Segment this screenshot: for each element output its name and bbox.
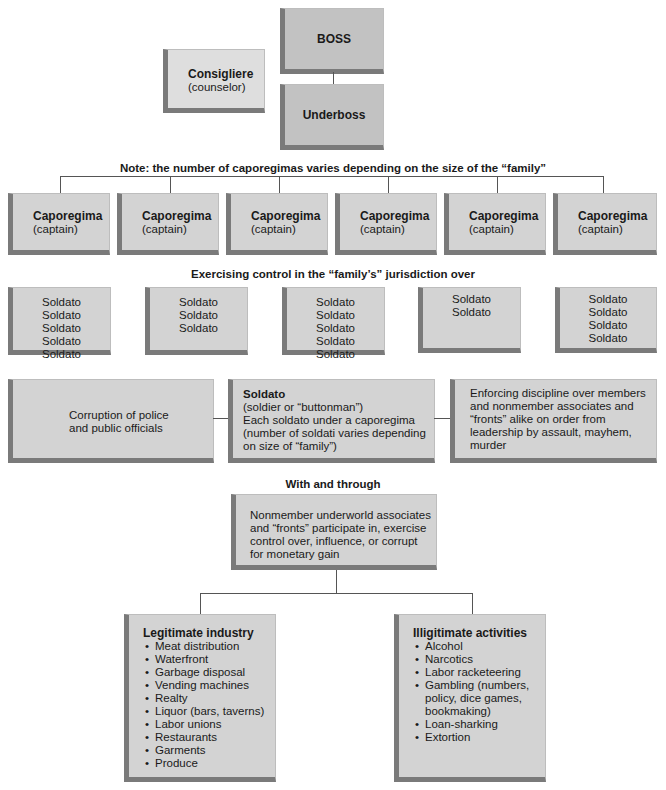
list-item: Labor racketeering xyxy=(413,666,537,679)
control-caption: Exercising control in the “family’s” jur… xyxy=(0,268,666,280)
soldato-line: Each soldato under a caporegima xyxy=(243,414,434,427)
list-item: Gambling (numbers, policy, dice games, b… xyxy=(413,679,537,718)
nonmember-line: for monetary gain xyxy=(250,548,436,561)
soldato-item: Soldato xyxy=(423,293,520,306)
list-item: Restaurants xyxy=(143,731,275,744)
caporegima-box: Caporegima (captain) xyxy=(117,193,219,255)
caporegima-title: Caporegima xyxy=(360,210,436,223)
enforcing-box: Enforcing discipline over members and no… xyxy=(450,379,657,463)
list-item: Narcotics xyxy=(413,653,537,666)
caporegima-subtitle: (captain) xyxy=(469,223,545,236)
nonmember-connector-v xyxy=(336,570,337,594)
caporegima-subtitle: (captain) xyxy=(142,223,218,236)
list-item: Produce xyxy=(143,757,275,770)
nonmember-line: control over, influence, or corrupt xyxy=(250,535,436,548)
caporegima-title: Caporegima xyxy=(469,210,545,223)
caporegima-subtitle: (captain) xyxy=(33,223,109,236)
caporegima-box: Caporegima (captain) xyxy=(8,193,110,255)
soldato-item: Soldato xyxy=(13,322,110,335)
list-item: Alcohol xyxy=(413,640,537,653)
soldato-item: Soldato xyxy=(287,296,384,309)
caporegima-note: Note: the number of caporegimas varies d… xyxy=(0,162,666,174)
caporegima-subtitle: (captain) xyxy=(360,223,436,236)
illegitimate-list: Alcohol Narcotics Labor racketeering Gam… xyxy=(413,640,537,744)
caporegima-title: Caporegima xyxy=(578,210,656,223)
soldato-item: Soldato xyxy=(150,296,247,309)
connector-drop-4 xyxy=(388,176,389,194)
consigliere-box: Consigliere (counselor) xyxy=(163,49,265,113)
caporegima-box: Caporegima (captain) xyxy=(553,193,657,255)
corruption-line: and public officials xyxy=(69,422,213,435)
soldato-title: Soldato xyxy=(243,388,434,401)
connector-drop-5 xyxy=(497,176,498,194)
list-item: Liquor (bars, taverns) xyxy=(143,705,275,718)
soldato-item: Soldato xyxy=(150,322,247,335)
legitimate-title: Legitimate industry xyxy=(143,627,275,640)
soldato-item: Soldato xyxy=(560,306,656,319)
soldato-item: Soldato xyxy=(13,348,110,361)
enforcing-line: leadership by assault, mayhem, xyxy=(470,426,656,439)
caporegima-subtitle: (captain) xyxy=(251,223,327,236)
soldato-group-3: Soldato Soldato Soldato Soldato Soldato xyxy=(282,287,385,355)
caporegima-box: Caporegima (captain) xyxy=(335,193,437,255)
boss-label: BOSS xyxy=(317,33,351,46)
consigliere-title: Consigliere xyxy=(188,68,264,81)
caporegima-title: Caporegima xyxy=(142,210,218,223)
soldato-item: Soldato xyxy=(560,332,656,345)
corruption-soldato-connector xyxy=(213,418,229,419)
nonmember-line: and “fronts” participate in, exercise xyxy=(250,522,436,535)
corruption-box: Corruption of police and public official… xyxy=(8,379,214,463)
caporegima-connector-h xyxy=(60,176,603,177)
enforcing-line: Enforcing discipline over members xyxy=(470,387,656,400)
list-item: Labor unions xyxy=(143,718,275,731)
connector-drop-3 xyxy=(279,176,280,194)
list-item: Loan-sharking xyxy=(413,718,537,731)
connector-drop-6 xyxy=(603,176,604,194)
soldato-group-4: Soldato Soldato xyxy=(418,287,521,353)
caporegima-box: Caporegima (captain) xyxy=(444,193,546,255)
legitimate-list: Meat distribution Waterfront Garbage dis… xyxy=(143,640,275,770)
boss-box: BOSS xyxy=(280,8,384,74)
enforcing-line: and nonmember associates and xyxy=(470,400,656,413)
list-item: Waterfront xyxy=(143,653,275,666)
soldato-item: Soldato xyxy=(560,293,656,306)
soldato-enforcing-connector xyxy=(434,418,450,419)
list-item: Vending machines xyxy=(143,679,275,692)
soldato-item: Soldato xyxy=(13,296,110,309)
corruption-line: Corruption of police xyxy=(69,409,213,422)
list-item: Meat distribution xyxy=(143,640,275,653)
soldato-item: Soldato xyxy=(13,335,110,348)
list-item: Realty xyxy=(143,692,275,705)
enforcing-line: murder xyxy=(470,439,656,452)
nonmember-line: Nonmember underworld associates xyxy=(250,509,436,522)
caporegima-title: Caporegima xyxy=(33,210,109,223)
soldato-item: Soldato xyxy=(287,335,384,348)
soldato-item: Soldato xyxy=(287,348,384,361)
caporegima-title: Caporegima xyxy=(251,210,327,223)
consigliere-subtitle: (counselor) xyxy=(188,81,264,94)
soldato-description-box: Soldato (soldier or “buttonman”) Each so… xyxy=(228,379,435,463)
illegitimate-activities-box: Illigitimate activities Alcohol Narcotic… xyxy=(394,614,546,782)
list-item: Garments xyxy=(143,744,275,757)
caporegima-box: Caporegima (captain) xyxy=(226,193,328,255)
soldato-line: (soldier or “buttonman”) xyxy=(243,401,434,414)
enforcing-line: “fronts” alike on order from xyxy=(470,413,656,426)
soldato-item: Soldato xyxy=(287,322,384,335)
underboss-box: Underboss xyxy=(280,84,384,150)
soldato-group-5: Soldato Soldato Soldato Soldato xyxy=(555,287,657,353)
soldato-item: Soldato xyxy=(560,319,656,332)
soldato-line: (number of soldati varies depending xyxy=(243,427,434,440)
bottom-connector-left xyxy=(200,593,201,615)
bottom-connector-right xyxy=(472,593,473,615)
caporegima-subtitle: (captain) xyxy=(578,223,656,236)
nonmember-box: Nonmember underworld associates and “fro… xyxy=(231,494,437,570)
soldato-group-1: Soldato Soldato Soldato Soldato Soldato xyxy=(8,287,111,355)
bottom-connector-h xyxy=(200,593,473,594)
with-through-caption: With and through xyxy=(0,478,666,490)
connector-drop-1 xyxy=(60,176,61,194)
illegitimate-title: Illigitimate activities xyxy=(413,627,537,640)
soldato-item: Soldato xyxy=(287,309,384,322)
connector-drop-2 xyxy=(170,176,171,194)
soldato-item: Soldato xyxy=(13,309,110,322)
soldato-group-2: Soldato Soldato Soldato xyxy=(145,287,248,355)
